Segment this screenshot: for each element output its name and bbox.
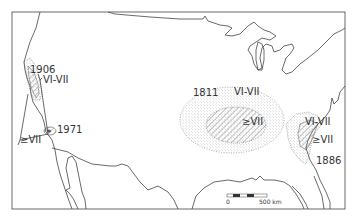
great-lakes xyxy=(240,22,345,74)
pacific-coastline xyxy=(24,12,72,209)
label-1906-zone: VI-VII xyxy=(43,74,69,85)
scale-start-label: 0 xyxy=(226,198,230,205)
intensity-map: 1906 VI-VII 1971 ≥VII 1811 VI-VII ≥VII V… xyxy=(0,0,357,221)
label-west-inner: ≥VII xyxy=(20,134,41,145)
label-1886-inner: ≥VII xyxy=(312,134,333,145)
label-1886: 1886 xyxy=(316,155,341,166)
gulf-coastline xyxy=(192,176,304,209)
label-1811-inner: ≥VII xyxy=(242,116,263,127)
label-1811: 1811 xyxy=(193,87,218,98)
atlantic-coastline xyxy=(306,86,345,209)
label-1971: 1971 xyxy=(57,124,82,135)
label-1886-outer: VI-VII xyxy=(305,116,331,127)
canada-border xyxy=(108,12,240,36)
us-mexico-border xyxy=(52,148,178,209)
label-1811-outer: VI-VII xyxy=(234,86,260,97)
florida xyxy=(292,176,324,209)
scale-bar: 0 500 km xyxy=(226,194,282,205)
scale-end-label: 500 km xyxy=(259,198,282,205)
